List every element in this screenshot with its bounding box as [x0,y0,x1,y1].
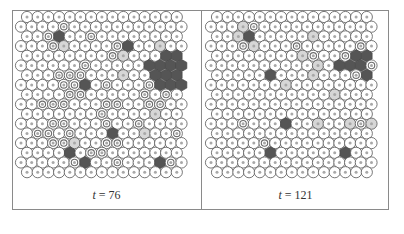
hex-grid-right [202,10,389,185]
grid-cell [205,21,216,32]
panel-left: t = 76 [12,10,201,210]
grid-cell [15,118,26,129]
caption-equals: = [96,188,109,202]
grid-cell [43,167,54,178]
grid-cell [15,157,26,168]
grid-cell [318,167,329,178]
grid-cell [32,167,43,178]
grid-cell [205,79,216,90]
grid-cell [54,167,65,178]
grid-cell [205,118,216,129]
grid-cell [276,167,287,178]
grid-cell [86,167,97,178]
caption-right: t = 121 [202,188,389,203]
hex-grid-left [12,10,201,185]
grid-cell [171,167,182,178]
grid-cell [21,167,32,178]
grid-cell [244,167,255,178]
grid-cell [329,167,340,178]
grid-cell [75,167,86,178]
grid-cell [161,167,172,178]
grid-cell [15,21,26,32]
grid-cell [96,167,107,178]
caption-left: t = 76 [12,188,201,203]
grid-cell [107,167,118,178]
grid-cell [233,167,244,178]
grid-cell [150,167,161,178]
grid-cell [15,41,26,52]
grid-cell [211,167,222,178]
grid-cell [139,167,150,178]
grid-cell [265,167,276,178]
caption-value: 121 [295,188,313,202]
grid-cell [64,167,75,178]
grid-cell [128,167,139,178]
grid-cell [254,167,265,178]
grid-cell [286,167,297,178]
grid-cell [15,99,26,110]
grid-cell [222,167,233,178]
caption-equals: = [282,188,295,202]
grid-cell [308,167,319,178]
grid-cell [205,99,216,110]
grid-cell [205,41,216,52]
grid-cell [205,60,216,71]
grid-cell [205,157,216,168]
grid-cell [15,60,26,71]
panel-right: t = 121 [202,10,389,210]
grid-cell [15,79,26,90]
grid-cell [340,167,351,178]
grid-cell [361,167,372,178]
grid-cell [118,167,129,178]
grid-cell [205,138,216,149]
grid-cell [297,167,308,178]
grid-cell [15,138,26,149]
caption-value: 76 [109,188,121,202]
grid-cell [351,167,362,178]
